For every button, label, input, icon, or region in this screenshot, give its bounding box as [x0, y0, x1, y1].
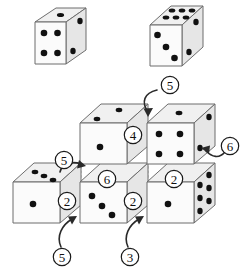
arrow-path [59, 219, 72, 247]
callout-label: 2 [64, 194, 71, 209]
cube-upper-left-top-pip [94, 117, 101, 121]
dice-puzzle-figure: 5 4 6 5 6 2 2 2 [0, 0, 242, 272]
callout-4-mid: 4 [124, 126, 141, 143]
cube-bottom-middle-front-face [80, 182, 127, 223]
die-left-front-pip [41, 30, 48, 37]
cube-bottom-right-right-pip [206, 198, 211, 205]
die-left-front-pip [54, 50, 61, 57]
dice-puzzle-canvas: 5 4 6 5 6 2 2 2 [0, 0, 242, 272]
callout-label: 4 [130, 128, 137, 143]
cube-upper-right-front-pip [177, 131, 184, 138]
die-left-top-pip [57, 13, 64, 17]
callout-label: 3 [127, 250, 134, 265]
cube-bottom-right-right-pip [206, 172, 211, 179]
callout-5-top: 5 [161, 76, 178, 93]
callout-6-right: 6 [221, 137, 238, 154]
die-right-top-pip [179, 8, 186, 12]
callout-2-right: 2 [165, 170, 182, 187]
callout-2-middle: 2 [124, 192, 141, 209]
cube-upper-right-front-pip [177, 151, 184, 158]
cube-upper-right-top-pip [176, 111, 183, 115]
callout-3-bottom: 3 [121, 248, 138, 265]
die-left [35, 8, 86, 64]
die-right-top-pip [163, 15, 170, 19]
cube-bottom-right-right-pip [197, 195, 202, 202]
cube-bottom-left-top-pip [50, 178, 57, 182]
cube-upper-left-front-pip [97, 144, 104, 151]
die-right-front-pip [171, 55, 178, 62]
die-right-right-pip [193, 19, 198, 26]
cube-bottom-middle-front-pip [109, 212, 116, 219]
cube-bottom-right-front-pip [165, 201, 172, 208]
cube-upper-right-right-pip [206, 114, 211, 121]
die-right-top-pip [173, 15, 180, 19]
callout-label: 5 [61, 153, 68, 168]
die-left-front-pip [54, 30, 61, 37]
cube-upper-left-front-face [80, 123, 127, 164]
callout-label: 6 [227, 139, 234, 154]
cube-bottom-left-top-pip [41, 174, 48, 178]
cube-bottom-right-right-pip [206, 185, 211, 192]
cube-bottom-left-top-pip [32, 170, 39, 174]
callout-6-center: 6 [98, 170, 115, 187]
cube-upper-right-front-pip [156, 151, 163, 158]
cube-bottom-middle [80, 163, 148, 223]
callout-label: 2 [171, 172, 178, 187]
callout-label: 5 [59, 250, 66, 265]
die-right-top-pip [169, 8, 176, 12]
cube-upper-right-front-pip [156, 131, 163, 138]
die-right-top-pip [183, 15, 190, 19]
cube-bottom-left-front-pip [30, 201, 37, 208]
die-left-front-pip [41, 50, 48, 57]
cube-bottom-middle-front-pip [99, 203, 106, 210]
cube-bottom-right [147, 163, 215, 223]
die-right-front-pip [154, 32, 161, 39]
cube-bottom-right-right-pip [197, 208, 202, 215]
die-left-right-pip [70, 48, 75, 55]
arrow-path [126, 219, 139, 247]
die-left-front-face [35, 22, 66, 64]
die-right-top-pip [189, 8, 196, 12]
callout-label: 5 [167, 78, 174, 93]
cube-upper-right [147, 104, 215, 164]
die-left-right-pip [77, 18, 82, 25]
die-right [150, 6, 203, 66]
cube-upper-right-front-face [147, 123, 194, 164]
callout-5-bottom: 5 [53, 248, 70, 265]
die-right-right-pip [186, 49, 191, 56]
callout-label: 6 [104, 172, 111, 187]
cube-upper-left-top-pip [116, 108, 123, 112]
cube-bottom-left-front-face [13, 182, 60, 223]
callout-5-left: 5 [55, 151, 72, 168]
die-right-front-pip [163, 44, 170, 51]
cube-bottom-right-right-pip [197, 182, 202, 189]
callout-label: 2 [130, 194, 137, 209]
cube-bottom-middle-front-pip [89, 193, 96, 200]
callout-2-left: 2 [58, 192, 75, 209]
